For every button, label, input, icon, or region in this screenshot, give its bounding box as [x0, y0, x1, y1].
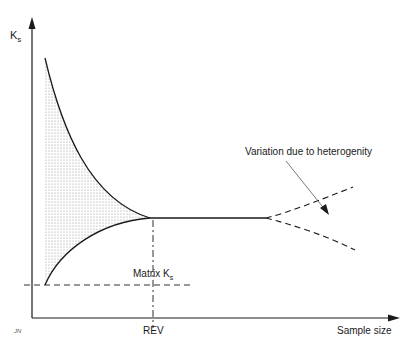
matrix-ks-label: Matrix Ks	[133, 268, 173, 281]
heterogeneity-upper-dashed	[266, 187, 353, 218]
y-axis-label: Ks	[10, 29, 21, 44]
rev-label: REV	[143, 325, 164, 336]
signature: JN	[14, 328, 21, 334]
heterogeneity-lower-dashed	[266, 218, 355, 250]
y-axis-arrow-icon	[29, 17, 36, 29]
annotation-arrow	[286, 161, 329, 215]
x-axis-label: Sample size	[337, 325, 391, 336]
x-axis	[32, 315, 400, 322]
diagram-canvas	[0, 0, 419, 355]
heterogeneity-annotation: Variation due to heterogenity	[245, 146, 372, 157]
x-axis-arrow-icon	[388, 315, 400, 322]
rev-diagram: Ks Variation due to heterogenity Matrix …	[0, 0, 419, 355]
y-axis	[29, 17, 36, 318]
variation-shaded-region	[45, 58, 150, 285]
